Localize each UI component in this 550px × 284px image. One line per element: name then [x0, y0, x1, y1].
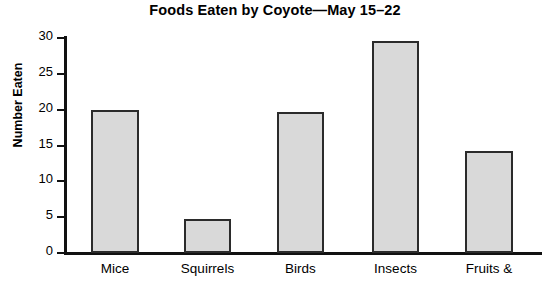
y-tick-label: 30: [39, 28, 53, 44]
y-tick-label: 10: [39, 171, 53, 187]
chart-title: Foods Eaten by Coyote—May 15–22: [0, 2, 550, 18]
y-tick-label: 0: [46, 243, 53, 259]
y-tick: 20: [57, 109, 64, 111]
y-tick-label: 5: [46, 207, 53, 223]
y-tick-label: 20: [39, 100, 53, 116]
y-axis-label: Number Eaten: [11, 50, 25, 160]
bar-chart: Foods Eaten by Coyote—May 15–22 Number E…: [0, 0, 550, 284]
y-tick-label: 15: [39, 136, 53, 152]
y-tick-label: 25: [39, 64, 53, 80]
x-axis-label: Fruits &: [429, 261, 549, 277]
y-axis-line: [64, 36, 67, 255]
bar: [184, 219, 231, 253]
y-tick: 15: [57, 145, 64, 147]
y-tick: 0: [57, 252, 64, 254]
bar: [277, 112, 324, 253]
y-tick: 5: [57, 216, 64, 218]
bar: [91, 110, 139, 253]
y-tick: 25: [57, 73, 64, 75]
y-tick: 30: [57, 37, 64, 39]
plot-area: 051015202530: [64, 36, 542, 255]
bar: [372, 41, 419, 253]
y-tick: 10: [57, 180, 64, 182]
bar: [465, 151, 513, 253]
